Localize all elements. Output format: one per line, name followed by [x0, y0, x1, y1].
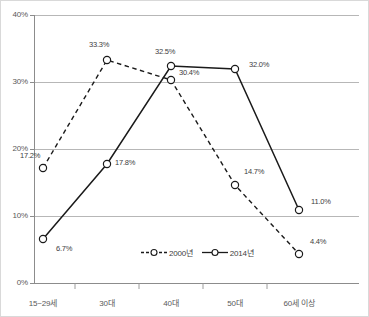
x-tick-label-60plus: 60세 이상: [264, 297, 334, 308]
series-markers-2000: [39, 56, 302, 257]
data-label-2014-30s: 17.8%: [115, 158, 135, 167]
series-line-2000: [43, 60, 299, 254]
x-tick-label-40s: 40대: [136, 297, 206, 308]
chart-plot-svg: [1, 1, 369, 317]
data-label-2014-40s: 32.5%: [155, 47, 175, 56]
series-markers-2014: [39, 62, 302, 242]
data-label-2000-40s: 30.4%: [179, 68, 199, 77]
x-axis: [34, 284, 359, 290]
y-axis: [30, 15, 35, 284]
legend-item-2014[interactable]: 2014년: [202, 247, 254, 258]
data-label-2000-60plus: 4.4%: [310, 237, 326, 246]
y-tick-label-30: 30%: [0, 77, 28, 86]
legend-label-2000: 2000년: [169, 247, 193, 258]
y-tick-label-40: 40%: [0, 10, 28, 19]
chart-legend: 2000년 2014년: [141, 247, 254, 258]
x-tick-label-15-29: 15~29세: [8, 297, 78, 308]
legend-marker-dashed-icon: [141, 248, 167, 257]
y-tick-label-0: 0%: [0, 278, 28, 287]
legend-label-2014: 2014년: [230, 247, 254, 258]
chart-container: 40% 30% 20% 10% 0% 15~29세 30대 40대 50대 60…: [0, 0, 369, 317]
data-label-2014-50s: 32.0%: [249, 60, 269, 69]
data-label-2014-60plus: 11.0%: [311, 197, 331, 206]
data-label-2014-15-29: 6.7%: [56, 244, 72, 253]
x-tick-label-50s: 50대: [200, 297, 270, 308]
y-tick-label-10: 10%: [0, 211, 28, 220]
data-label-2000-30s: 33.3%: [89, 40, 109, 49]
data-label-2000-50s: 14.7%: [244, 167, 264, 176]
legend-marker-solid-icon: [202, 248, 228, 257]
x-tick-label-30s: 30대: [72, 297, 142, 308]
legend-item-2000[interactable]: 2000년: [141, 247, 193, 258]
data-label-2000-15-29: 17.2%: [20, 151, 40, 160]
gridlines: [34, 16, 359, 217]
